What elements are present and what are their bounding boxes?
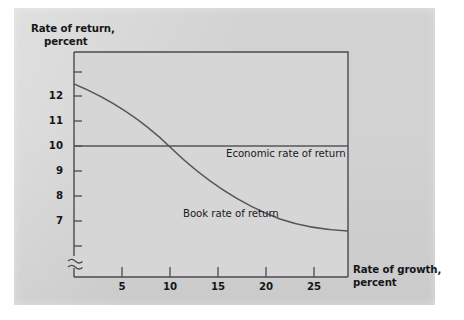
figure-root: Rate of return, percent Rate of growth, … xyxy=(0,0,464,320)
series-label-economic-rate-of-return: Economic rate of return xyxy=(226,148,346,159)
y-axis-title-line2: percent xyxy=(31,35,115,48)
y-tick-label-9: 9 xyxy=(41,165,63,176)
x-tick-label-25: 25 xyxy=(303,281,325,292)
y-tick-label-7: 7 xyxy=(41,215,63,226)
x-tick-label-15: 15 xyxy=(207,281,229,292)
y-tick-label-11: 11 xyxy=(41,115,63,126)
x-tick-label-10: 10 xyxy=(159,281,181,292)
plot-area xyxy=(74,52,348,277)
x-axis-title-line1: Rate of growth, xyxy=(353,264,441,275)
series-label-book-rate-of-return: Book rate of return xyxy=(183,208,279,219)
y-tick-label-12: 12 xyxy=(41,90,63,101)
x-axis-title: Rate of growth, percent xyxy=(353,263,441,289)
y-axis-title-line1: Rate of return, xyxy=(31,23,115,34)
y-axis-title: Rate of return, percent xyxy=(31,22,115,48)
x-axis-title-line2: percent xyxy=(353,276,441,289)
y-tick-label-8: 8 xyxy=(41,190,63,201)
x-tick-label-20: 20 xyxy=(255,281,277,292)
y-tick-label-10: 10 xyxy=(41,140,63,151)
x-tick-label-5: 5 xyxy=(111,281,133,292)
